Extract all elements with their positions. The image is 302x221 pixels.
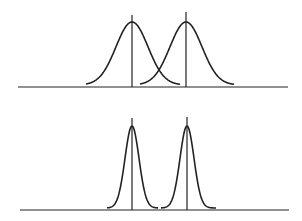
bottom-panel-separated-distributions (20, 117, 289, 210)
top-panel-overlapping-distributions (18, 12, 288, 87)
distribution-diagram (0, 0, 302, 221)
normal-curve-2 (161, 126, 216, 208)
normal-curve-1 (86, 22, 180, 84)
normal-curve-2 (140, 22, 234, 84)
